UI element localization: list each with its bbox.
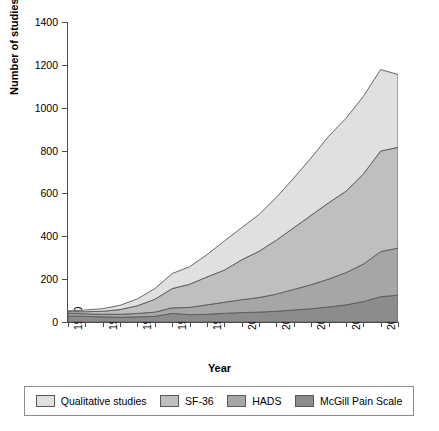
x-axis-tick <box>294 322 295 327</box>
y-axis-tick-label: 600 <box>16 188 58 198</box>
x-axis-tick <box>120 322 121 327</box>
x-axis-tick <box>329 322 330 327</box>
y-axis-tick <box>62 279 67 280</box>
x-axis-tick <box>398 322 399 327</box>
y-axis-tick <box>62 322 67 323</box>
x-axis-tick <box>276 322 277 327</box>
legend-item: SF-36 <box>160 395 214 407</box>
y-axis-tick <box>62 151 67 152</box>
x-axis-tick <box>85 322 86 327</box>
legend-swatch-icon <box>36 395 55 407</box>
legend-item: McGill Pain Scale <box>295 395 402 407</box>
x-axis-tick <box>172 322 173 327</box>
y-axis-tick-label: 400 <box>16 231 58 241</box>
y-axis-tick-label: 1200 <box>16 60 58 70</box>
legend-item-label: HADS <box>252 395 281 407</box>
x-axis-tick <box>68 322 69 327</box>
area-series-svg <box>68 22 398 322</box>
x-axis-tick <box>224 322 225 327</box>
legend-item-label: SF-36 <box>185 395 214 407</box>
x-axis-tick <box>155 322 156 327</box>
x-axis-tick <box>137 322 138 327</box>
y-axis-title-container: Number of studies <box>0 0 26 340</box>
x-axis-tick <box>103 322 104 327</box>
y-axis-tick-label: 1400 <box>16 17 58 27</box>
chart-legend: Qualitative studiesSF-36HADSMcGill Pain … <box>24 386 414 416</box>
legend-swatch-icon <box>295 395 314 407</box>
y-axis-tick-label: 200 <box>16 274 58 284</box>
legend-item-label: Qualitative studies <box>61 395 147 407</box>
legend-item: Qualitative studies <box>36 395 147 407</box>
x-axis-tick <box>259 322 260 327</box>
y-axis-tick <box>62 22 67 23</box>
x-axis-tick <box>242 322 243 327</box>
x-axis-title: Year <box>0 362 439 374</box>
legend-swatch-icon <box>227 395 246 407</box>
y-axis-tick <box>62 65 67 66</box>
plot-area <box>68 22 398 322</box>
y-axis-title: Number of studies <box>8 0 20 95</box>
x-axis-tick <box>190 322 191 327</box>
legend-item: HADS <box>227 395 281 407</box>
x-axis-tick <box>311 322 312 327</box>
y-axis-tick <box>62 236 67 237</box>
x-axis-tick <box>207 322 208 327</box>
x-axis-tick <box>346 322 347 327</box>
stacked-area-chart: Number of studies 0200400600800100012001… <box>0 0 439 431</box>
legend-swatch-icon <box>160 395 179 407</box>
x-axis-tick <box>381 322 382 327</box>
x-axis-tick <box>363 322 364 327</box>
legend-item-label: McGill Pain Scale <box>320 395 402 407</box>
y-axis-tick <box>62 108 67 109</box>
y-axis-tick-label: 0 <box>16 317 58 327</box>
y-axis-tick-label: 800 <box>16 146 58 156</box>
y-axis-tick <box>62 193 67 194</box>
y-axis-tick-label: 1000 <box>16 103 58 113</box>
